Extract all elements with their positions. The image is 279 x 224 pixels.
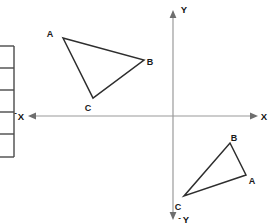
triangle-upper-left-outline — [63, 38, 144, 98]
y-axis-positive-arrow-icon — [170, 10, 177, 18]
axis-label-x-positive: X — [261, 111, 268, 122]
vertex-label-upper-b: B — [147, 57, 154, 67]
axes-group — [28, 10, 258, 220]
axis-label-y-positive: Y — [181, 4, 188, 15]
triangle-lower-right: B A C — [175, 133, 256, 212]
vertex-label-upper-c: C — [85, 103, 92, 113]
axis-label-x-negative-sign: - — [14, 108, 17, 117]
triangle-upper-left: A B C — [47, 29, 154, 113]
coordinate-plane-figure: X - X Y - Y A B C B A C — [0, 0, 279, 224]
axis-label-x-negative: X — [18, 111, 25, 122]
triangle-lower-right-outline — [184, 143, 246, 196]
x-axis-positive-arrow-icon — [250, 113, 258, 120]
x-axis-negative-arrow-icon — [28, 113, 36, 120]
vertex-label-lower-b: B — [231, 133, 238, 143]
figure-canvas: X - X Y - Y A B C B A C — [0, 0, 279, 224]
side-table — [0, 46, 14, 157]
vertex-label-lower-a: A — [249, 176, 256, 186]
y-axis-negative-arrow-icon — [170, 212, 177, 220]
axis-label-y-negative: Y — [183, 214, 190, 224]
vertex-label-lower-c: C — [175, 202, 182, 212]
vertex-label-upper-a: A — [47, 29, 54, 39]
axis-label-y-negative-sign: - — [178, 213, 181, 222]
